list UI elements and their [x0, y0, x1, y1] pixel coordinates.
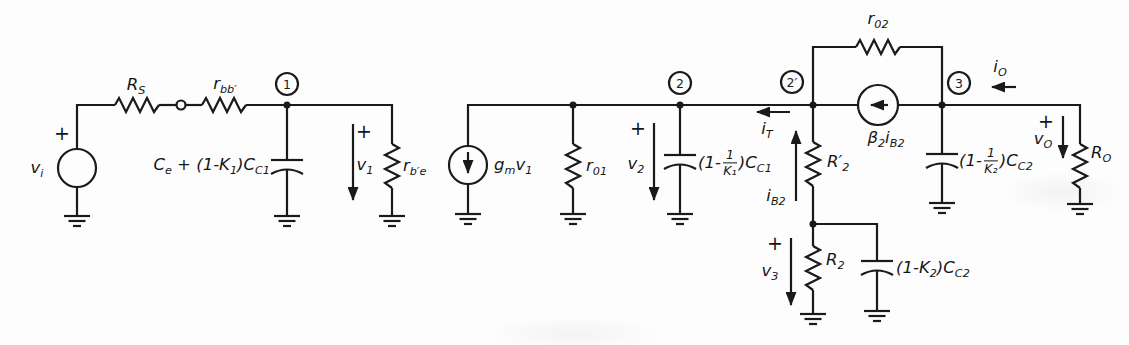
label-rs: RS: [127, 76, 146, 94]
plus-polarity-vi: +: [54, 122, 70, 144]
label-r01: r01: [586, 157, 607, 175]
circuit-diagram: 1 2: [0, 0, 1129, 345]
ground-symbol-cap4: [864, 311, 890, 321]
wire-r02-left-leg: [813, 47, 856, 105]
ground-symbol-k2cc2: [929, 203, 955, 213]
label-gmv1: gmv1: [494, 156, 532, 174]
wire-bus-left: [468, 105, 858, 146]
label-io: iO: [993, 58, 1006, 76]
wire-r02-right-leg: [900, 47, 942, 105]
resistor-rbb: [202, 98, 246, 112]
terminal-circle: [177, 101, 186, 110]
label-r02: r02: [867, 10, 888, 28]
label-rbb: rbb′: [213, 75, 237, 93]
label-vo: vO: [1034, 130, 1053, 148]
plus-polarity-v1: +: [356, 120, 372, 142]
ground-symbol-r01: [560, 214, 586, 224]
ground-symbol-vi: [64, 216, 90, 226]
resistor-rs: [115, 98, 159, 112]
label-v2: v2: [628, 155, 645, 173]
node2-label: 2: [676, 76, 684, 91]
ground-symbol-gmv1: [455, 214, 481, 224]
label-k2cc2-r2: (1-K2)CC2: [896, 259, 970, 277]
source-vi-circle: [58, 149, 96, 187]
label-ib2: iB2: [766, 187, 785, 205]
resistor-r02: [856, 40, 900, 54]
resistor-ro: [1073, 144, 1087, 188]
label-ce-cc1: Ce + (1-K1)CC1: [153, 156, 270, 174]
label-it: iT: [761, 120, 772, 138]
label-k2cc2-n3: (1-1K₂)CC2: [959, 146, 1033, 175]
node1-label: 1: [283, 77, 291, 92]
resistor-r2prime: [806, 142, 820, 186]
label-k1cc1: (1-1K₁)CC1: [698, 148, 772, 177]
plus-polarity-vo: +: [1038, 110, 1054, 132]
ground-symbol-ro: [1067, 204, 1093, 214]
plus-polarity-v3: +: [767, 232, 783, 254]
node2prime-label: 2′: [787, 75, 798, 90]
ground-symbol-rbe: [379, 216, 405, 226]
label-r2prime: R′2: [827, 153, 849, 171]
label-v3: v3: [762, 262, 779, 280]
plus-polarity-v2: +: [630, 117, 646, 139]
ground-symbol-r2: [800, 314, 826, 324]
label-vi: vi: [31, 159, 44, 177]
wire-junction-to-cap4: [813, 224, 877, 261]
label-r2: R2: [826, 251, 845, 269]
label-beta2ib2: β2iB2: [867, 129, 904, 147]
resistor-r01: [566, 144, 580, 188]
label-rbe: rb′e: [403, 157, 426, 175]
label-v1: v1: [357, 156, 374, 174]
label-ro: RO: [1091, 144, 1111, 162]
ground-symbol-k1cc1: [667, 214, 693, 224]
resistor-rbe: [385, 144, 399, 188]
ground-symbol-ce: [274, 216, 300, 226]
wire-vi-to-rs: [77, 105, 115, 149]
resistor-r2: [806, 246, 820, 290]
node3-label: 3: [955, 76, 963, 91]
